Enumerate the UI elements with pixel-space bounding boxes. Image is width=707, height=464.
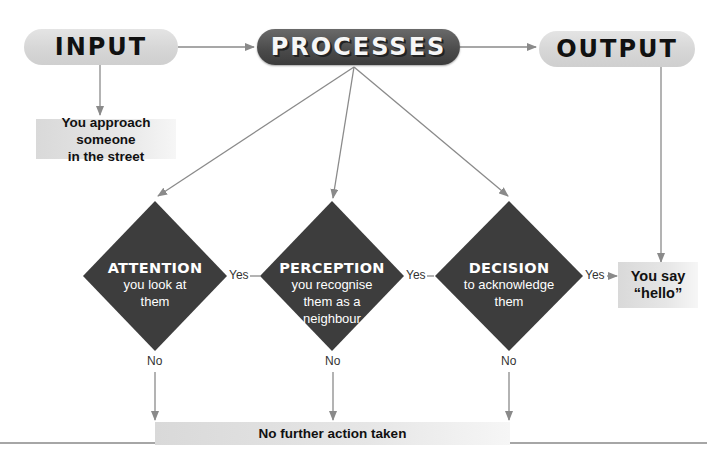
no-label-attention: No: [146, 354, 163, 368]
perception-line-3: neighbour: [270, 310, 394, 327]
yes-label-attention: Yes: [228, 268, 250, 282]
perception-text: PERCEPTION you recognise them as a neigh…: [270, 260, 394, 327]
no-action-box: No further action taken: [155, 422, 510, 445]
output-line-1: You say: [631, 268, 686, 285]
decision-text: DECISION to acknowledge them: [447, 260, 571, 310]
no-label-perception: No: [324, 354, 341, 368]
output-line-2: “hello”: [634, 285, 682, 302]
attention-text: ATTENTION you look at them: [93, 260, 217, 310]
output-label: OUTPUT: [556, 35, 678, 63]
no-action-text: No further action taken: [259, 425, 407, 442]
connector-lines: [0, 0, 707, 464]
decision-title: DECISION: [447, 260, 571, 276]
perception-line-1: you recognise: [270, 276, 394, 293]
input-label: INPUT: [55, 33, 147, 61]
input-line-1: You approach someone: [36, 114, 176, 148]
output-description-box: You say “hello”: [618, 262, 698, 308]
attention-line-1: you look at: [93, 276, 217, 293]
processes-pill: PROCESSES: [257, 29, 460, 65]
attention-line-2: them: [93, 293, 217, 310]
output-pill: OUTPUT: [539, 31, 695, 67]
yes-label-decision: Yes: [584, 268, 606, 282]
decision-line-1: to acknowledge: [447, 276, 571, 293]
input-description-box: You approach someone in the street: [36, 119, 176, 159]
attention-title: ATTENTION: [93, 260, 217, 276]
perception-title: PERCEPTION: [270, 260, 394, 276]
input-line-2: in the street: [68, 148, 145, 165]
input-pill: INPUT: [24, 29, 178, 65]
decision-line-2: them: [447, 293, 571, 310]
yes-label-perception: Yes: [405, 268, 427, 282]
perception-line-2: them as a: [270, 293, 394, 310]
no-label-decision: No: [500, 354, 517, 368]
processes-label: PROCESSES: [271, 33, 447, 61]
